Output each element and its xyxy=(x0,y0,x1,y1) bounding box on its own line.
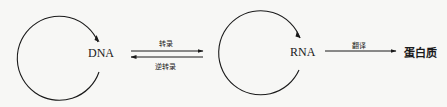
reverse-transcription-label: 逆转录 xyxy=(155,61,176,71)
dna-label: DNA xyxy=(88,46,114,61)
loop-arrowhead-icon xyxy=(296,31,301,38)
diagram-lines xyxy=(0,0,447,107)
central-dogma-diagram: DNA RNA 蛋白质 转录 逆转录 翻译 xyxy=(0,0,447,107)
rna-replication-loop xyxy=(219,11,301,95)
translation-label: 翻译 xyxy=(352,40,366,50)
protein-label: 蛋白质 xyxy=(404,44,437,60)
transcription-label: 转录 xyxy=(159,38,173,48)
rna-label: RNA xyxy=(290,45,315,60)
